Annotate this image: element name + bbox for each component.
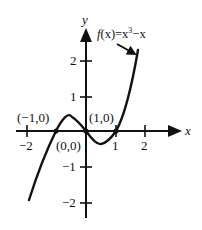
y-tick-label-neg2: −2 [62,196,76,209]
point-neg1-0 [53,128,58,133]
point-label-0-0: (0,0) [56,139,81,152]
x-tick-label-2: 2 [141,139,148,152]
y-tick-label-1: 1 [70,90,77,103]
point-label-1-0: (1,0) [89,111,114,124]
point-label-neg1-0: (−1,0) [17,111,49,124]
function-tail: −x [132,27,145,41]
y-tick-label-neg1: −1 [62,160,76,173]
annotation-arrow-icon [117,44,135,54]
function-curve [29,50,138,200]
point-0-0 [83,128,88,133]
function-label: f(x)=x3−x [97,27,146,41]
x-tick-label-neg2: −2 [19,139,33,152]
y-axis-label: y [82,13,88,26]
x-axis-label: x [185,124,191,137]
y-axis-arrow-icon [80,28,92,42]
x-axis [16,125,182,137]
x-axis-arrow-icon [168,125,182,137]
function-arg: (x)=x [100,27,128,41]
y-tick-label-2: 2 [70,54,77,67]
x-tick-label-1: 1 [112,139,119,152]
point-1-0 [113,128,118,133]
